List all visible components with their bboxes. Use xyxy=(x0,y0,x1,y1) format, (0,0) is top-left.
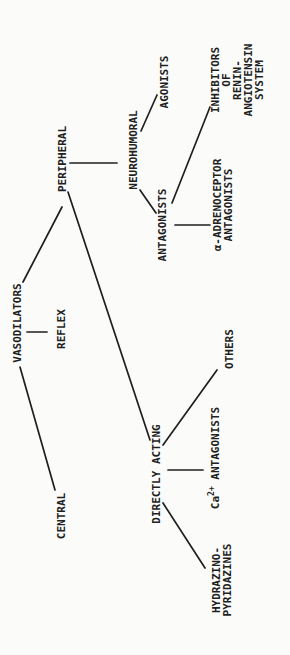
node-directly-acting: DIRECTLY ACTING xyxy=(151,424,162,523)
ca-antagonists-text: ANTAGONISTS xyxy=(209,407,222,486)
edge-vasodilators-peripheral xyxy=(23,207,62,282)
ca-symbol: Ca xyxy=(209,496,222,509)
node-others: OTHERS xyxy=(224,329,235,369)
edge-antagonists-inhibitors-ras xyxy=(172,107,210,203)
node-agonists: AGONISTS xyxy=(159,56,170,109)
vasodilators-classification-tree: VASODILATORS CENTRAL REFLEX PERIPHERAL N… xyxy=(0,0,290,655)
node-inhibitors-renin-angiotensin-system: INHIBITORS OF RENIN- ANGIOTENSIN SYSTEM xyxy=(210,44,265,117)
node-antagonists: ANTAGONISTS xyxy=(157,189,168,262)
edge-vasodilators-central xyxy=(20,367,55,490)
node-hydrazino-pyridazines: HYDRAZINO- PYRIDAZINES xyxy=(211,544,233,617)
node-peripheral: PERIPHERAL xyxy=(57,126,68,192)
edge-peripheral-directly-acting xyxy=(68,192,150,440)
scanned-page: VASODILATORS CENTRAL REFLEX PERIPHERAL N… xyxy=(0,0,290,655)
ca-charge-superscript: 2+ xyxy=(207,486,216,496)
node-vasodilators: VASODILATORS xyxy=(12,283,23,362)
node-alpha-adrenoceptor-antagonists: α-ADRENOCEPTOR ANTAGONISTS xyxy=(212,159,234,252)
node-central: CENTRAL xyxy=(56,493,67,539)
node-ca-antagonists: Ca2+ ANTAGONISTS xyxy=(210,407,221,509)
node-neurohumoral: NEUROHUMORAL xyxy=(128,110,139,189)
node-reflex: REFLEX xyxy=(56,309,67,349)
edge-neurohumoral-antagonists xyxy=(140,190,156,213)
edge-directly-acting-hydrazino xyxy=(163,503,205,568)
edge-neurohumoral-agonists xyxy=(141,95,157,131)
